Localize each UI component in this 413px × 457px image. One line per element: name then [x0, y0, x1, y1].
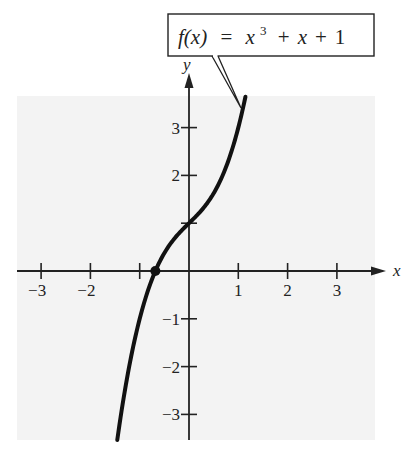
- function-lhs: f(x): [178, 25, 207, 49]
- y-axis-label: y: [181, 55, 191, 74]
- function-rhs-base: x: [245, 25, 256, 49]
- x-axis-arrow-icon: [371, 267, 386, 276]
- y-tick-label: −2: [162, 358, 180, 377]
- x-tick-label: −2: [77, 281, 95, 300]
- function-graph: −3−2123 −3−2−123 x y f(x) = x 3 +x+1: [0, 0, 413, 457]
- x-intercept-point: [150, 266, 160, 276]
- x-tick-label: 2: [283, 281, 292, 300]
- y-tick-label: 2: [172, 166, 181, 185]
- plot-panel: [17, 96, 375, 440]
- x-tick-label: 1: [234, 281, 243, 300]
- y-tick-label: −1: [162, 310, 180, 329]
- y-axis-arrow-icon: [185, 73, 194, 88]
- y-tick-label: −3: [162, 405, 180, 424]
- x-tick-label: −3: [28, 281, 46, 300]
- x-axis-label: x: [392, 261, 401, 280]
- function-equals: =: [220, 25, 232, 49]
- x-tick-label: 3: [333, 281, 342, 300]
- function-rhs-exp: 3: [260, 23, 267, 38]
- y-tick-label: 3: [172, 119, 181, 138]
